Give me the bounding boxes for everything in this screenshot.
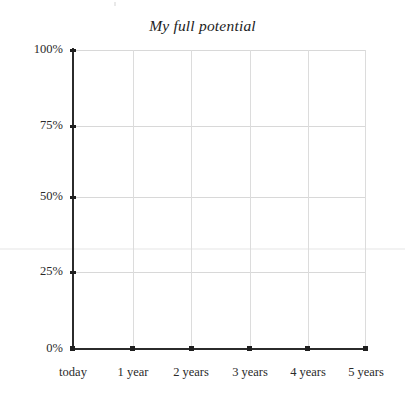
data-point-today [70, 346, 75, 351]
gridline-horizontal-100 [73, 50, 366, 51]
y-axis-line [72, 48, 74, 351]
gridline-vertical-4-years [308, 50, 309, 349]
gridline-vertical-2-years [191, 50, 192, 349]
x-tick-label-5-years: 5 years [326, 365, 405, 380]
gridline-vertical-3-years [250, 50, 251, 349]
gridline-horizontal-75 [73, 126, 366, 127]
data-point-3-years [247, 346, 252, 351]
gridline-horizontal-25 [73, 272, 366, 273]
data-point-4-years [305, 346, 310, 351]
y-tick-label-100: 100% [5, 42, 63, 57]
data-point-2-years [189, 346, 194, 351]
scan-artifact-speck [114, 2, 116, 6]
gridline-horizontal-50 [73, 197, 366, 198]
plot-area [73, 50, 366, 349]
y-axis-tick-labels: 100% 75% 50% 25% 0% [5, 0, 63, 403]
data-point-1-year [130, 346, 135, 351]
y-tick-label-75: 75% [5, 118, 63, 133]
y-tick-label-25: 25% [5, 264, 63, 279]
y-tick-marker-100 [70, 49, 76, 52]
gridline-vertical-5-years [365, 50, 366, 349]
chart-figure: My full potential 100% 75% 50% 25% 0% to [0, 0, 405, 403]
y-tick-marker-75 [70, 125, 76, 128]
y-tick-marker-50 [70, 196, 76, 199]
x-axis-line [72, 348, 368, 350]
y-tick-label-50: 50% [5, 189, 63, 204]
gridline-vertical-1-year [133, 50, 134, 349]
y-tick-label-0: 0% [5, 341, 63, 356]
data-point-5-years [363, 346, 368, 351]
y-tick-marker-25 [70, 271, 76, 274]
